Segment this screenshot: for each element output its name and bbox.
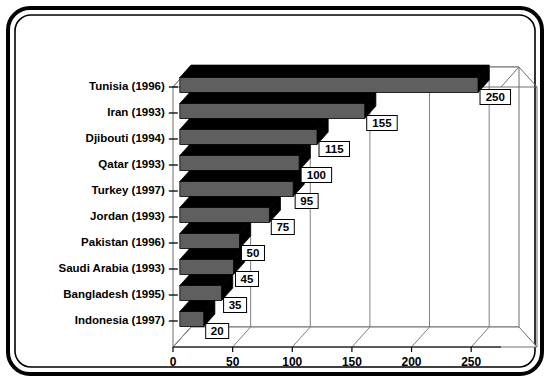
category-axis-label: Iran (1993) [107,106,165,118]
data-label-text: 20 [211,325,224,337]
bar-chart-3d: Indonesia (1997)Bangladesh (1995)Saudi A… [0,0,550,382]
bar-front-face [180,286,222,301]
bar-front-face [180,78,478,93]
data-label-text: 95 [300,195,313,207]
value-axis-tick-label: 150 [342,355,362,369]
value-axis-tick-label: 0 [170,355,177,369]
bar-item [180,91,376,118]
data-label: 115 [319,142,350,157]
bar-front-face [180,312,204,327]
data-label: 250 [480,90,511,105]
bar-front-face [180,208,269,223]
bar-front-face [180,156,299,171]
bar-item [180,117,328,144]
data-label: 155 [367,116,398,131]
bar-top-face [180,117,328,129]
chart-container: Indonesia (1997)Bangladesh (1995)Saudi A… [0,0,550,382]
category-axis: Indonesia (1997)Bangladesh (1995)Saudi A… [59,80,178,326]
bar-item [180,273,233,300]
bar-front-face [180,130,317,145]
bar-item [180,65,489,92]
data-label: 20 [206,324,229,339]
bar-front-face [180,234,240,249]
category-axis-label: Jordan (1993) [90,210,165,222]
data-label: 45 [236,272,259,287]
category-axis-label: Djibouti (1994) [86,132,165,144]
value-axis-tick-label: 200 [402,355,422,369]
data-label-text: 155 [372,117,392,129]
bar-top-face [180,221,251,233]
bar-front-face [180,260,234,275]
category-axis-label: Tunisia (1996) [89,80,165,92]
bar-top-face [180,143,310,155]
category-axis-label: Saudi Arabia (1993) [59,262,165,274]
bar-item [180,221,251,248]
data-label: 50 [241,246,264,261]
bar-item [180,195,281,222]
category-axis-label: Qatar (1993) [98,158,165,170]
data-label: 95 [295,194,318,209]
category-axis-label: Pakistan (1996) [81,236,165,248]
bar-item [180,143,310,170]
data-label-text: 50 [247,247,260,259]
bar-top-face [180,65,489,77]
bar-front-face [180,104,365,119]
data-label: 75 [271,220,294,235]
data-label: 35 [224,298,247,313]
data-label-text: 100 [307,169,326,181]
value-axis-tick-label: 50 [226,355,240,369]
data-label-text: 35 [229,299,242,311]
data-label-text: 250 [486,91,505,103]
bar-top-face [180,169,304,181]
data-label-text: 45 [241,273,254,285]
data-label: 100 [301,168,332,183]
category-axis-label: Turkey (1997) [92,184,165,196]
value-axis-tick-label: 100 [282,355,302,369]
bar-top-face [180,195,281,207]
data-label-text: 115 [325,143,344,155]
category-axis-label: Indonesia (1997) [75,314,165,326]
bar-front-face [180,182,293,197]
bar-item [180,169,304,196]
value-axis-tick-label: 250 [461,355,481,369]
bar-top-face [180,91,376,103]
bar-item [180,247,245,274]
data-label-text: 75 [276,221,289,233]
category-axis-label: Bangladesh (1995) [63,288,165,300]
